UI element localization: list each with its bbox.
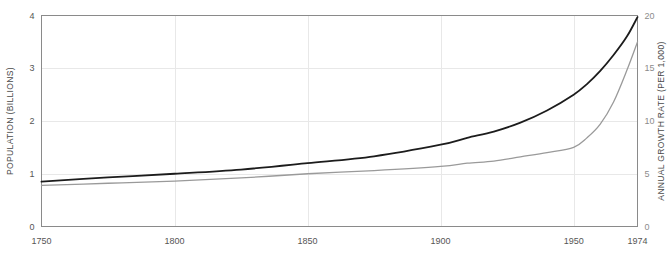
y-axis-left-tick: 3 — [29, 63, 34, 73]
y-axis-right-tick: 5 — [645, 169, 650, 179]
chart-container: 01234 05101520 175018001850190019501974 … — [0, 0, 671, 256]
series-line-population — [42, 17, 638, 182]
x-axis-tick: 1800 — [165, 236, 185, 246]
series-line-growth-rate — [42, 42, 638, 185]
x-axis-tick-labels: 175018001850190019501974 — [31, 236, 647, 246]
series-layer — [42, 17, 638, 185]
y-axis-left-title: POPULATION (BILLIONS) — [5, 67, 15, 175]
y-axis-left-tick: 0 — [29, 222, 34, 232]
y-axis-left-tick: 1 — [29, 169, 34, 179]
y-axis-right-tick: 10 — [645, 116, 655, 126]
x-axis-tick: 1850 — [298, 236, 318, 246]
x-axis-tick: 1950 — [564, 236, 584, 246]
y-axis-right-title: ANNUAL GROWTH RATE (PER 1,000) — [656, 41, 666, 200]
horizontal-gridlines — [42, 69, 638, 175]
y-axis-right-tick: 0 — [645, 222, 650, 232]
y-axis-right-tick-labels: 05101520 — [645, 11, 655, 232]
y-axis-right-tick: 20 — [645, 11, 655, 21]
y-axis-left-tick: 2 — [29, 116, 34, 126]
population-growth-chart: 01234 05101520 175018001850190019501974 … — [0, 0, 671, 256]
x-axis-tick: 1974 — [627, 236, 647, 246]
x-axis-tick: 1750 — [31, 236, 51, 246]
x-axis-tick: 1900 — [431, 236, 451, 246]
y-axis-left-tick: 4 — [29, 11, 34, 21]
y-axis-left-tick-labels: 01234 — [29, 11, 34, 232]
y-axis-right-tick: 15 — [645, 63, 655, 73]
